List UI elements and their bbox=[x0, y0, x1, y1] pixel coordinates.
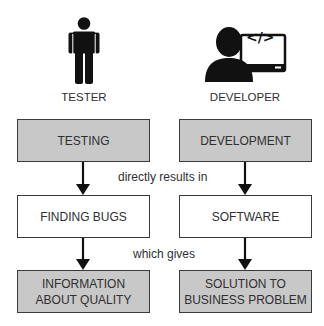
outcome-line-1: INFORMATION bbox=[42, 276, 125, 292]
testing-box: TESTING bbox=[17, 119, 150, 162]
developer-label: DEVELOPER bbox=[205, 91, 285, 103]
outcome-line-2: BUSINESS PROBLEM bbox=[184, 292, 307, 308]
outcome-line-2: ABOUT QUALITY bbox=[36, 292, 132, 308]
arrow-down-icon bbox=[76, 162, 90, 196]
software-text: SOFTWARE bbox=[212, 209, 280, 225]
arrow-down-icon bbox=[238, 162, 252, 196]
solution-to-business-problem-box: SOLUTION TO BUSINESS PROBLEM bbox=[179, 270, 312, 313]
finding-bugs-text: FINDING BUGS bbox=[40, 209, 127, 225]
testing-text: TESTING bbox=[57, 133, 109, 149]
arrow-down-icon bbox=[76, 238, 90, 271]
arrow-down-icon bbox=[238, 238, 252, 271]
software-box: SOFTWARE bbox=[179, 195, 312, 238]
development-text: DEVELOPMENT bbox=[200, 133, 291, 149]
finding-bugs-box: FINDING BUGS bbox=[17, 195, 150, 238]
outcome-line-1: SOLUTION TO bbox=[205, 276, 286, 292]
person-icon bbox=[68, 17, 100, 85]
connector-which-gives: which gives bbox=[133, 247, 195, 261]
tester-label: TESTER bbox=[54, 91, 114, 103]
code-glyph: </> bbox=[246, 29, 275, 45]
information-about-quality-box: INFORMATION ABOUT QUALITY bbox=[17, 270, 150, 313]
development-box: DEVELOPMENT bbox=[179, 119, 312, 162]
connector-directly-results-in: directly results in bbox=[118, 170, 207, 184]
